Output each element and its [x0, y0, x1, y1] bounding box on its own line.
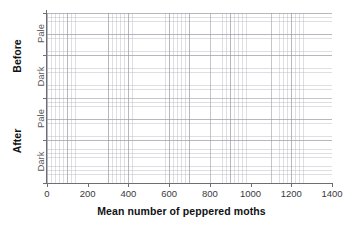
x-tick-200: [88, 183, 89, 187]
x-tick-1200: [291, 183, 292, 187]
x-tick-label-1000: 1000: [231, 188, 271, 200]
y-axis-line: [46, 10, 47, 184]
y-group-label-before: Before: [11, 26, 23, 86]
x-tick-label-0: 0: [27, 188, 67, 200]
x-tick-label-1200: 1200: [271, 188, 311, 200]
x-tick-label-600: 600: [149, 188, 189, 200]
y-category-label-after-pale: Pale: [35, 97, 46, 141]
y-category-label-before-pale: Pale: [35, 12, 46, 56]
x-tick-1400: [332, 183, 333, 187]
y-category-label-before-dark: Dark: [35, 55, 46, 99]
y-group-label-after: After: [11, 111, 23, 171]
x-tick-label-1400: 1400: [312, 188, 352, 200]
y-category-label-after-dark: Dark: [35, 140, 46, 184]
x-tick-800: [210, 183, 211, 187]
plot-area-gridpaper: [47, 13, 332, 183]
x-axis-title: Mean number of peppered moths: [0, 205, 363, 217]
x-tick-label-800: 800: [190, 188, 230, 200]
x-tick-400: [128, 183, 129, 187]
peppered-moths-chart: 0 200 400 600 800 1000 1200 1400 Pale Da…: [0, 0, 363, 231]
x-tick-1000: [251, 183, 252, 187]
x-tick-0: [47, 183, 48, 187]
x-tick-600: [169, 183, 170, 187]
x-tick-label-200: 200: [68, 188, 108, 200]
x-tick-label-400: 400: [108, 188, 148, 200]
